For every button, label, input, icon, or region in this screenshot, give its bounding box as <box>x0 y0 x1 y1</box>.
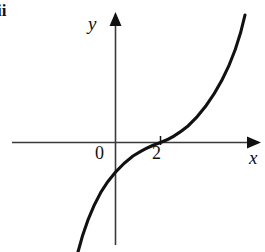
x-tick-label-2: 2 <box>152 144 161 162</box>
coordinate-plot-svg <box>0 0 265 252</box>
y-axis-label: y <box>88 14 96 33</box>
x-axis-label: x <box>249 148 257 167</box>
curve-path <box>78 15 245 252</box>
origin-label: 0 <box>95 144 104 162</box>
graph-figure: ii y x 0 2 <box>0 0 265 252</box>
y-axis-arrowhead <box>110 12 122 26</box>
